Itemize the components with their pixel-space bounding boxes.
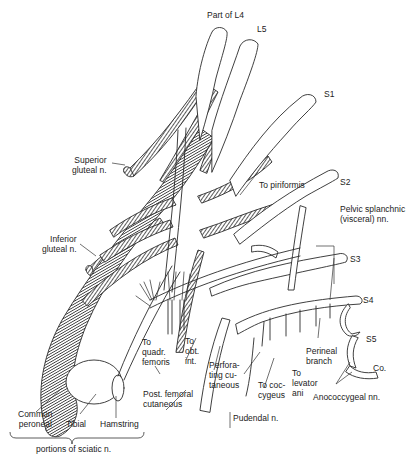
label-s1: S1 bbox=[324, 89, 334, 99]
label-l5: L5 bbox=[257, 24, 266, 34]
label-s3: S3 bbox=[350, 254, 360, 264]
sacral-plexus-diagram: Part of L4 L5 S1 S2 S3 S4 S5 Co. Superio… bbox=[0, 0, 413, 463]
label-to-piriformis: To piriformis bbox=[259, 180, 305, 190]
label-superior-gluteal: Superior gluteal n. bbox=[72, 155, 107, 175]
label-pudendal: Pudendal n. bbox=[233, 413, 278, 423]
posterior-divisions bbox=[86, 78, 276, 352]
sciatic-brace bbox=[10, 432, 144, 444]
label-co: Co. bbox=[373, 363, 386, 373]
label-post-femoral-cutaneous: Post. femoral cutaneous bbox=[143, 389, 193, 409]
label-perforating-cutaneous: Perfora- ting cu- taneous bbox=[209, 360, 240, 390]
label-part-of-l4: Part of L4 bbox=[207, 10, 244, 20]
label-anococcygeal: Anococcygeal nn. bbox=[313, 392, 380, 402]
label-sciatic-caption: portions of sciatic n. bbox=[36, 444, 111, 454]
label-common-peroneal: Common peroneal bbox=[18, 409, 52, 429]
label-tibial: Tibial bbox=[66, 419, 86, 429]
label-to-coccygeus: To coc- cygeus bbox=[258, 380, 285, 400]
label-to-quadr-femoris: To quadr. femoris bbox=[142, 337, 170, 367]
label-pelvic-splanchnic: Pelvic splanchnic (visceral) nn. bbox=[340, 204, 405, 224]
label-s5: S5 bbox=[366, 334, 376, 344]
label-to-obt-int: To obt. int. bbox=[185, 336, 199, 366]
label-s4: S4 bbox=[363, 295, 373, 305]
hamstring-portion bbox=[112, 375, 124, 401]
label-s2: S2 bbox=[340, 177, 350, 187]
label-inferior-gluteal: Inferior gluteal n. bbox=[42, 234, 77, 254]
label-hamstring: Hamstring bbox=[100, 419, 139, 429]
label-perineal-branch: Perineal branch bbox=[306, 346, 337, 366]
